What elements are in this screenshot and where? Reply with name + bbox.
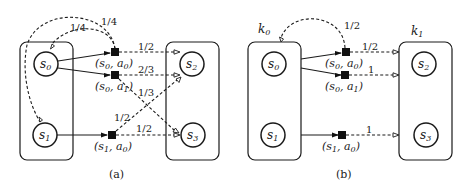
action-node-s0a0 xyxy=(342,48,350,56)
prob-label: 1/3 xyxy=(138,87,154,98)
arrowhead-icon xyxy=(393,133,399,137)
prob-label: 1/2 xyxy=(114,112,130,123)
prob-label: 1/2 xyxy=(136,123,152,134)
action-node-s0a1 xyxy=(111,71,119,79)
arrowhead-icon xyxy=(176,77,181,83)
arrowhead-icon xyxy=(173,128,179,133)
action-node-s0a1 xyxy=(341,71,349,79)
arrowhead-icon xyxy=(393,50,399,54)
action-node-s1a0 xyxy=(338,131,346,139)
prob-label: 1 xyxy=(366,124,372,135)
arrowhead-icon xyxy=(393,73,399,77)
action-label-s1a0: (s1, a0) xyxy=(94,140,132,154)
prob-label: 1/2 xyxy=(138,41,154,52)
cluster-label-k1: k1 xyxy=(411,24,423,39)
arrowhead-icon xyxy=(335,73,342,78)
prob-label: 1 xyxy=(368,64,374,75)
mdp-diagram: s0 s1 s2 s3 (s0, a0) (s0, a1) (s1, a0) 1… xyxy=(0,0,466,193)
arrowhead-icon xyxy=(104,51,111,56)
prob-label: 1/4 xyxy=(101,16,117,27)
arrowhead-icon xyxy=(335,51,342,56)
action-label-s0a0: (s0, a0) xyxy=(95,57,133,71)
arrowhead-icon xyxy=(101,133,108,138)
transition-s0a0-to-k0 xyxy=(281,19,345,48)
arrowhead-icon xyxy=(332,133,339,138)
state-s2: s2 xyxy=(180,52,204,76)
action-node-s1a0 xyxy=(108,131,116,139)
prob-label: 2/3 xyxy=(138,64,154,75)
arrowhead-icon xyxy=(174,50,180,54)
arrowhead-icon xyxy=(51,44,55,49)
arrowhead-icon xyxy=(39,117,43,122)
action-label-s1a0: (s1, a0) xyxy=(322,140,360,154)
state-s3: s3 xyxy=(181,123,205,147)
state-s2: s2 xyxy=(412,52,436,76)
arrowhead-icon xyxy=(174,73,180,77)
prob-label: 1/4 xyxy=(70,22,86,33)
state-s0: s0 xyxy=(34,52,58,76)
action-label-s0a1: (s0, a1) xyxy=(325,80,363,94)
action-label-s0a0: (s0, a0) xyxy=(325,57,363,71)
cluster-label-k0: k0 xyxy=(258,22,270,37)
arrowhead-icon xyxy=(280,37,284,42)
prob-label: 1/2 xyxy=(362,41,378,52)
arrowhead-icon xyxy=(104,73,111,78)
state-s0: s0 xyxy=(262,52,286,76)
action-label-s0a1: (s0, a1) xyxy=(95,80,133,94)
state-s3: s3 xyxy=(414,123,438,147)
state-s1: s1 xyxy=(33,123,57,147)
prob-label: 1/2 xyxy=(344,20,360,31)
panel-caption-a: (a) xyxy=(109,168,124,181)
state-s1: s1 xyxy=(261,123,285,147)
panel-b: k0 k1 s0 s1 s2 xyxy=(248,19,452,181)
action-node-s0a0 xyxy=(111,48,119,56)
panel-a: s0 s1 s2 s3 (s0, a0) (s0, a1) (s1, a0) 1… xyxy=(20,16,219,181)
panel-caption-b: (b) xyxy=(336,168,352,181)
